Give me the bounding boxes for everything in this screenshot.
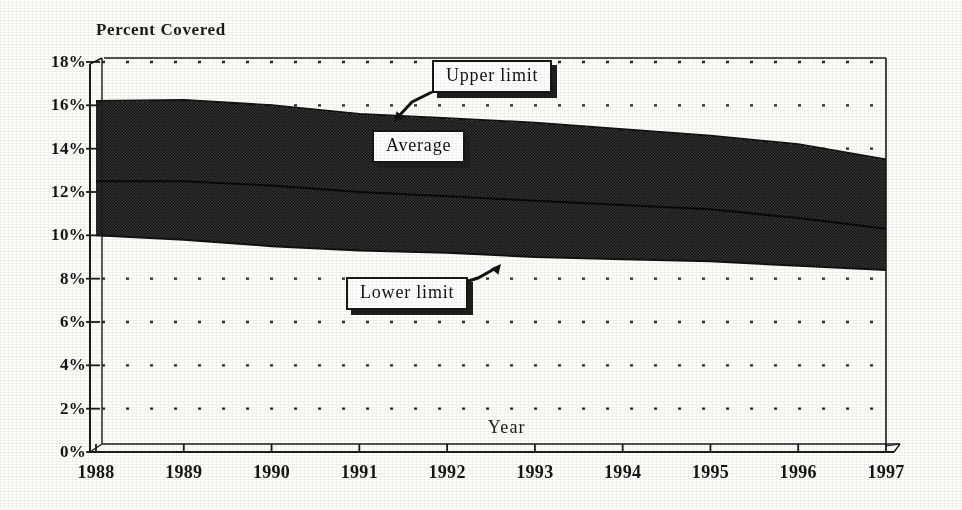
callout-lower-limit: Lower limit — [346, 277, 468, 310]
lower-limit-arrowhead — [491, 264, 501, 275]
callout-lower-limit-label: Lower limit — [346, 277, 468, 310]
callout-average: Average — [372, 130, 465, 163]
callout-upper-limit: Upper limit — [432, 60, 552, 93]
chart-page: Percent Covered 0%2%4%6%8%10%12%14%16%18… — [0, 0, 962, 510]
callout-average-label: Average — [372, 130, 465, 163]
callout-upper-limit-label: Upper limit — [432, 60, 552, 93]
y-axis-top-cap — [90, 58, 102, 64]
uncertainty-band — [96, 100, 886, 270]
